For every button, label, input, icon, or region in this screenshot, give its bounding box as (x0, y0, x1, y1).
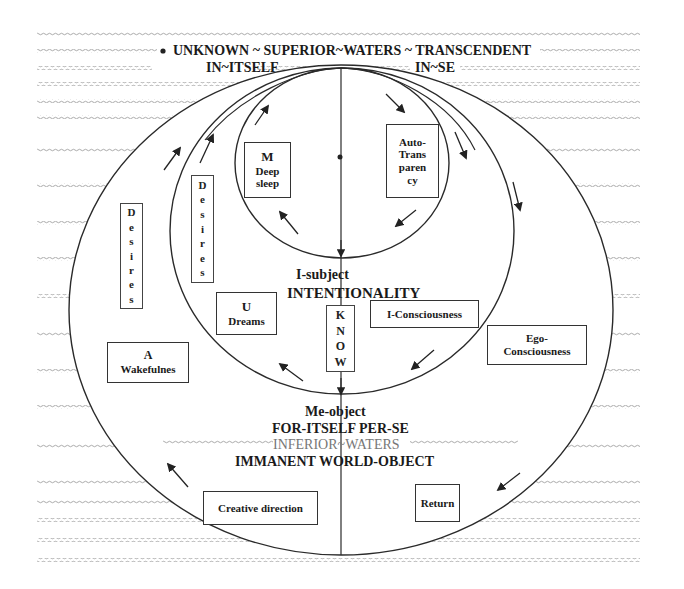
desires-inner-box: D e s i r e s (191, 175, 214, 283)
center-dot-icon (338, 155, 343, 160)
deep-sleep-box: M Deep sleep (244, 142, 291, 198)
return-label: Return (421, 497, 455, 510)
letter: s (200, 209, 204, 220)
i-subject-label: I-subject (296, 268, 349, 282)
paren-line: paren (399, 161, 426, 174)
letter: N (336, 325, 345, 337)
know-box: K N O W (326, 305, 355, 372)
letter: K (336, 309, 345, 321)
m-letter: M (261, 150, 273, 165)
immanent-label: IMMANENT WORLD-OBJECT (235, 455, 434, 469)
consciousness-diagram: UNKNOWN ~ SUPERIOR~WATERS ~ TRANSCENDENT… (0, 0, 684, 589)
inferior-waters-line-right (410, 440, 518, 444)
dreams-label: Dreams (228, 315, 264, 328)
arrow-icon (396, 210, 416, 226)
me-object-label: Me-object (305, 405, 366, 419)
inferior-waters-line-left (163, 440, 273, 444)
i-consciousness-label: I-Consciousness (387, 308, 462, 321)
ego-label: Ego- (526, 332, 548, 345)
letter: e (129, 279, 134, 290)
dreams-box: U Dreams (216, 292, 277, 335)
letter: i (130, 251, 133, 262)
trans-line: Trans (399, 148, 426, 161)
in-itself-label: IN~ITSELF (206, 61, 279, 75)
letter: D (199, 180, 207, 191)
bullet-icon (160, 48, 165, 53)
a-letter: A (144, 349, 153, 363)
i-consciousness-box: I-Consciousness (370, 300, 479, 328)
arrow-icon (513, 182, 520, 210)
arrow-icon (412, 350, 434, 369)
letter: r (200, 238, 205, 249)
cy-line: cy (407, 174, 417, 187)
auto-line: Auto- (399, 136, 426, 149)
letter: e (129, 222, 134, 233)
letter: s (129, 294, 133, 305)
arrow-icon (386, 94, 404, 112)
letter: e (200, 253, 205, 264)
creative-direction-box: Creative direction (203, 491, 318, 525)
arrow-icon (200, 135, 213, 163)
arrow-icon (255, 106, 268, 125)
auto-transparency-box: Auto- Trans paren cy (386, 124, 439, 198)
letter: r (129, 265, 134, 276)
arrow-icon (498, 473, 520, 490)
in-se-label: IN~SE (415, 61, 455, 75)
u-letter: U (242, 300, 251, 315)
top-label: UNKNOWN ~ SUPERIOR~WATERS ~ TRANSCENDENT (173, 44, 531, 58)
arrow-icon (280, 212, 298, 234)
arrow-icon (164, 148, 180, 170)
letter: W (335, 356, 347, 368)
apex-arc-left (205, 68, 341, 140)
consciousness-label: Consciousness (503, 345, 570, 358)
letter: O (336, 340, 345, 352)
ego-consciousness-box: Ego- Consciousness (487, 325, 587, 365)
letter: s (129, 236, 133, 247)
deep-label: Deep (256, 165, 280, 178)
wakefulness-box: A Wakefulnes (107, 342, 189, 383)
letter: s (200, 267, 204, 278)
arrow-icon (168, 464, 188, 487)
arrow-icon (455, 132, 466, 158)
inferior-waters-label: INFERIOR~WATERS (273, 438, 400, 452)
wakefulness-label: Wakefulnes (120, 363, 175, 376)
for-itself-label: FOR-ITSELF PER-SE (272, 422, 409, 436)
creative-direction-label: Creative direction (218, 502, 303, 515)
letter: D (128, 207, 136, 218)
desires-outer-box: D e s i r e s (120, 203, 143, 309)
letter: e (200, 194, 205, 205)
sleep-label: sleep (256, 177, 279, 190)
letter: i (201, 224, 204, 235)
arrow-icon (280, 364, 303, 381)
intentionality-label: INTENTIONALITY (287, 286, 420, 301)
return-box: Return (415, 484, 460, 522)
